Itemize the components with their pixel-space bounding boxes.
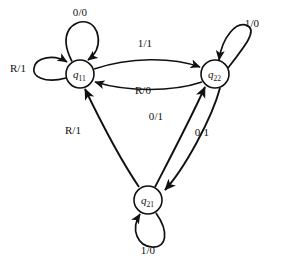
transition-q22-self-right	[219, 25, 251, 68]
transition-label-q11-self-left: R/1	[10, 63, 26, 74]
state-label-q21-subscript: 21	[147, 200, 155, 209]
transition-q11-self-top	[66, 22, 98, 62]
transition-label-q22-to-q11: R/0	[135, 85, 151, 96]
transition-label-q21-self-bottom: 1/0	[141, 245, 155, 256]
transition-label-q11-to-q22: 1/1	[138, 38, 152, 49]
transition-q21-self-bottom	[136, 213, 165, 247]
transition-q11-to-q22	[94, 60, 200, 69]
transition-q22-to-q21	[165, 88, 220, 190]
transition-label-q22-to-q21: 0/1	[195, 127, 209, 138]
transition-label-q22-self-right: 1/0	[245, 18, 259, 29]
transition-label-q21-to-q11: R/1	[65, 125, 81, 136]
state-diagram-canvas: q11 q22 q21 0/0 R/1 1/1 R/0 1/0 0/1 0/1 …	[0, 0, 284, 268]
transition-label-q21-to-q22: 0/1	[149, 111, 163, 122]
transition-q21-to-q11	[85, 89, 139, 187]
state-label-q11-subscript: 11	[79, 74, 86, 83]
transition-q11-self-left	[34, 57, 67, 80]
transition-label-q11-self-top: 0/0	[73, 7, 87, 18]
state-label-q22-subscript: 22	[214, 74, 222, 83]
